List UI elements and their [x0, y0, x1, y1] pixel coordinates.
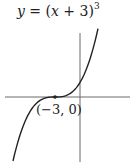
point-label: (−3, 0)	[36, 102, 82, 117]
plot-area	[0, 0, 134, 165]
cubic-curve	[13, 29, 98, 161]
point-marker	[53, 95, 57, 99]
